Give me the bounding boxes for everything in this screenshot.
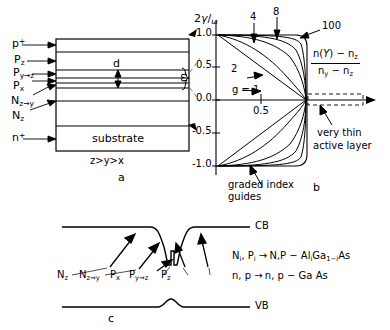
panel-b-chart [190, 0, 390, 200]
curve-label-g1: g = 1 [232, 85, 259, 95]
layer-label-n-plus: n+ [12, 132, 25, 143]
legend-rhs-2: n, p − Ga As [265, 270, 328, 281]
layer-label-Nz: Nz [12, 110, 24, 122]
panel-b-caption-line2: guides [228, 192, 261, 202]
layer-label-Px: Px [13, 80, 24, 92]
thin-layer-leader [320, 105, 332, 125]
carrier-injection-arrows [110, 234, 208, 271]
x-axis-formula: n(Y) − nz ny − nz [311, 48, 360, 78]
legend-lhs-2: n, p [232, 270, 251, 281]
material-legend: Ni, Pi → N,P − AliGa1−iAs n, p → n, p − … [232, 246, 350, 285]
x-tick-half: 0.5 [253, 106, 269, 116]
panel-c-diagram [50, 205, 260, 330]
panel-c-label-Pyz: Py→z [129, 270, 148, 281]
legend-arrow-2: → [254, 270, 261, 281]
x-axis-arrowhead [366, 96, 376, 104]
chart-axes [216, 20, 368, 175]
y-tick-5: -1.0 [192, 159, 212, 169]
panel-c-letter: c [108, 313, 114, 324]
layer-label-p-plus: p+ [12, 38, 25, 49]
curve-pointers-top [251, 17, 320, 43]
legend-line-2: n, p → n, p − Ga As [232, 266, 350, 285]
curve-label-100: 100 [322, 21, 341, 31]
y-tick-2: 0.5 [196, 60, 212, 70]
y-tick-3: 0.0 [196, 93, 212, 103]
thickness-indicator [115, 70, 121, 88]
panel-c-label-Nzy: Nz→y [79, 270, 100, 281]
panel-a-caption: z>y>x [90, 156, 124, 166]
legend-arrow-1: → [259, 250, 266, 261]
valence-band-profile [62, 299, 250, 307]
layer-label-Pz: Pz [14, 54, 25, 66]
formula-numerator: n(Y) − nz [311, 48, 360, 64]
panel-a-pointer-arrows [22, 42, 56, 142]
band-label-cb: CB [255, 221, 269, 231]
thin-layer-annotation-line1: very thin [317, 128, 362, 138]
panel-c-label-Px: Px [110, 270, 120, 281]
panel-b-letter: b [313, 182, 320, 193]
figure-root: p+ Pz Py→z Px Nz→y Nz n+ d substrate ω z… [0, 0, 390, 330]
layer-label-Pyz: Py→z [13, 67, 34, 79]
y-tick-4: -0.5 [192, 126, 212, 136]
layer-label-Nzy: Nz→y [11, 95, 34, 107]
curve-label-4: 4 [250, 12, 256, 22]
y-tick-1: 1.0 [196, 28, 212, 38]
thickness-label-d: d [113, 58, 120, 69]
panel-c-label-Pz: Pz [161, 270, 171, 281]
y-axis-label: 2γ/ω [194, 13, 218, 26]
curve-label-8: 8 [273, 7, 279, 17]
legend-line-1: Ni, Pi → N,P − AliGa1−iAs [232, 246, 350, 266]
band-label-vb: VB [255, 301, 269, 311]
formula-denominator: ny − nz [311, 64, 360, 79]
panel-c-label-Nz: Nz [57, 270, 68, 281]
omega-label: ω [179, 73, 190, 82]
panel-a-letter: a [118, 172, 125, 183]
substrate-label: substrate [92, 133, 144, 144]
thin-layer-annotation-line2: active layer [313, 141, 372, 151]
panel-b-caption-line1: graded index [228, 180, 294, 190]
curve-label-2: 2 [231, 64, 237, 74]
